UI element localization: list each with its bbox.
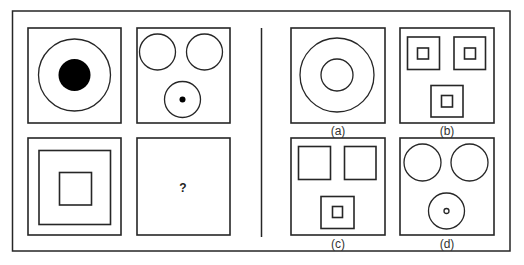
dot: [180, 97, 186, 103]
option-a-label: (a): [331, 124, 346, 138]
option-b-label: (b): [440, 124, 455, 138]
option-d-label: (d): [440, 237, 455, 251]
option-b[interactable]: (b): [400, 28, 494, 138]
problem-figure-1: [28, 28, 121, 123]
problem-figure-4: ?: [137, 138, 230, 235]
option-c-label: (c): [331, 237, 345, 251]
question-mark: ?: [179, 181, 186, 195]
problem-figure-2: [137, 28, 230, 123]
option-c[interactable]: (c): [291, 138, 385, 251]
option-d[interactable]: (d): [400, 138, 494, 251]
filled-circle: [59, 59, 91, 91]
puzzle-canvas: ? (a) (b) (c) (d): [0, 0, 524, 265]
problem-figure-3: [28, 138, 121, 235]
option-a[interactable]: (a): [291, 28, 385, 138]
